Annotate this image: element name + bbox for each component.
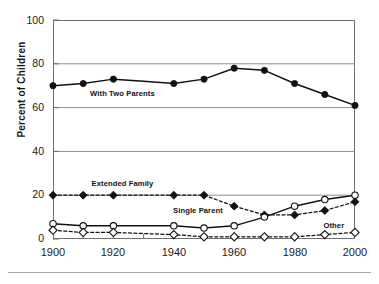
data-point	[291, 233, 299, 241]
series-line	[53, 68, 355, 105]
data-point	[170, 191, 178, 199]
data-point	[352, 102, 358, 108]
data-point	[352, 192, 358, 198]
data-point	[230, 233, 238, 241]
data-point	[291, 203, 297, 209]
data-point	[231, 65, 237, 71]
data-point	[201, 76, 207, 82]
data-point	[200, 233, 208, 241]
footer-rule	[8, 272, 371, 273]
data-point	[322, 196, 328, 202]
data-point	[321, 207, 329, 215]
data-point	[79, 228, 87, 236]
data-point	[79, 191, 87, 199]
series-label-with-two-parents: With Two Parents	[90, 89, 155, 98]
data-point	[50, 83, 56, 89]
data-point	[110, 76, 116, 82]
y-axis-title: Percent of Children	[16, 20, 27, 160]
x-tick-label-1960: 1960	[211, 246, 257, 258]
data-point	[351, 198, 359, 206]
data-point	[200, 191, 208, 199]
data-point	[230, 202, 238, 210]
x-tick-label-1940: 1940	[151, 246, 197, 258]
data-point	[171, 223, 177, 229]
data-point	[260, 233, 268, 241]
x-tick-label-1920: 1920	[90, 246, 136, 258]
data-point	[291, 211, 299, 219]
y-tick-label-80: 80	[14, 57, 44, 69]
data-point	[49, 191, 57, 199]
data-point	[231, 223, 237, 229]
data-point	[80, 80, 86, 86]
y-tick-label-0: 0	[14, 232, 44, 244]
data-point	[170, 231, 178, 239]
data-point	[171, 80, 177, 86]
chart-figure: Percent of Children 100 80 60 40 20 0 19…	[0, 0, 379, 284]
data-point	[261, 67, 267, 73]
y-tick-label-40: 40	[14, 145, 44, 157]
y-tick-label-60: 60	[14, 101, 44, 113]
x-tick-label-1900: 1900	[30, 246, 76, 258]
data-point	[261, 214, 267, 220]
data-point	[109, 228, 117, 236]
series-label-other: Other	[323, 221, 344, 230]
data-point	[109, 191, 117, 199]
data-point	[49, 226, 57, 234]
data-point	[201, 225, 207, 231]
data-point	[322, 91, 328, 97]
data-point	[292, 80, 298, 86]
series-label-extended-family: Extended Family	[92, 179, 154, 188]
data-point	[351, 228, 359, 236]
x-tick-label-1980: 1980	[272, 246, 318, 258]
series-label-single-parent: Single Parent	[173, 206, 223, 215]
series-with-two-parents	[50, 65, 358, 108]
data-point	[321, 231, 329, 239]
y-tick-label-20: 20	[14, 188, 44, 200]
y-tick-label-100: 100	[14, 14, 44, 26]
x-tick-label-2000: 2000	[332, 246, 378, 258]
